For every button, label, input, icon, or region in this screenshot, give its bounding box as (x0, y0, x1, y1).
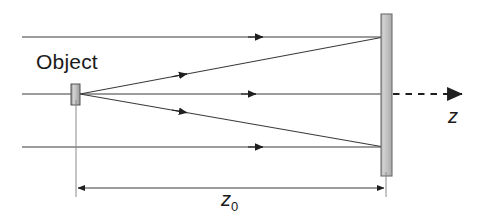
incoming-ray-arrowheads (248, 37, 263, 147)
lower-diffracted-ray (80, 94, 384, 147)
observation-screen (381, 14, 392, 176)
object-label: Object (36, 50, 98, 74)
figure-canvas: Object z0 z (0, 0, 486, 224)
z0-subscript: 0 (231, 199, 238, 214)
upper-diffracted-ray (80, 37, 384, 94)
upper-diffracted-ray-arrow (172, 74, 187, 77)
lower-diffracted-ray-arrow (172, 110, 187, 113)
z-axis-label: z (448, 105, 458, 128)
z0-base: z (221, 188, 231, 210)
diffracted-ray-group (80, 37, 384, 147)
z0-distance-label: z0 (221, 188, 238, 214)
diffracted-ray-arrowheads (172, 74, 256, 113)
ray-diagram-svg (0, 0, 486, 224)
extension-line-group (76, 100, 386, 197)
